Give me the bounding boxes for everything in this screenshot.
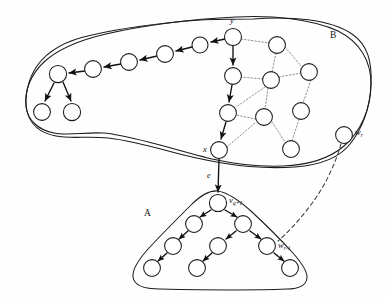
node-d4[interactable] [293, 103, 310, 120]
label-node-wr1-sub: r-1 [284, 245, 291, 251]
node-group [34, 29, 353, 277]
node-vq[interactable] [209, 194, 226, 211]
label-node-wr-sub: r [361, 132, 364, 138]
solid-edge [225, 210, 237, 217]
dotted-edge-group [227, 39, 311, 147]
solid-edge [211, 39, 225, 42]
node-b1[interactable] [192, 37, 208, 53]
solid-edge [229, 85, 232, 102]
node-a8[interactable] [282, 260, 299, 277]
solid-edge [218, 159, 219, 192]
label-node-wr: wr [355, 127, 364, 138]
figure-root: B A y x e wr wr-1 vq+1 [0, 0, 387, 300]
dotted-edge [227, 122, 256, 147]
dotted-edge [292, 119, 299, 141]
label-region-b: B [330, 30, 336, 40]
solid-edge [274, 253, 284, 261]
solid-edge [45, 83, 54, 101]
solid-edge [63, 82, 71, 101]
label-node-wr1: wr-1 [278, 240, 291, 251]
solid-edge [69, 71, 85, 73]
dotted-edge [236, 87, 265, 107]
node-y[interactable] [225, 29, 242, 46]
label-region-a: A [144, 208, 151, 218]
solid-edge [158, 253, 167, 261]
node-a6[interactable] [144, 260, 161, 277]
label-node-x: x [202, 144, 207, 154]
solid-edge [221, 122, 226, 139]
node-a2[interactable] [235, 216, 252, 233]
node-d6[interactable] [283, 141, 300, 158]
dotted-edge [241, 39, 269, 43]
node-d5[interactable] [256, 109, 273, 126]
dotted-edge [272, 53, 276, 72]
graph-diagram-svg: B A y x e wr wr-1 vq+1 [0, 0, 387, 300]
node-a7[interactable] [189, 260, 206, 277]
solid-edge [179, 231, 188, 239]
solid-edge [200, 210, 211, 217]
node-b6[interactable] [34, 104, 51, 121]
node-d2[interactable] [263, 72, 280, 89]
solid-edge [104, 64, 121, 67]
label-node-vq: vq+1 [229, 195, 243, 206]
node-b3[interactable] [121, 54, 138, 71]
dotted-edge [285, 47, 301, 66]
node-b5[interactable] [49, 65, 66, 82]
node-c2[interactable] [220, 105, 237, 122]
node-d3[interactable] [301, 64, 318, 81]
node-a1[interactable] [186, 216, 203, 233]
dotted-edge [241, 77, 263, 79]
solid-edge [176, 47, 192, 51]
node-wr1[interactable] [259, 238, 276, 255]
node-a4[interactable] [210, 238, 227, 255]
dotted-edge [265, 88, 268, 109]
node-wr[interactable] [336, 127, 353, 144]
node-c1[interactable] [225, 68, 242, 85]
label-node-vq-sub: q+1 [233, 200, 243, 206]
dotted-edge [279, 73, 301, 77]
node-b7[interactable] [63, 103, 80, 120]
dotted-edge [272, 122, 285, 142]
label-edge-e: e [207, 170, 211, 180]
node-a3[interactable] [165, 238, 182, 255]
label-node-y: y [229, 15, 234, 25]
node-d1[interactable] [269, 37, 286, 54]
node-b4[interactable] [85, 61, 102, 78]
dotted-edge [303, 80, 311, 103]
node-x[interactable] [211, 142, 228, 159]
solid-edge [203, 253, 212, 261]
dotted-edge [236, 115, 256, 119]
node-b2[interactable] [157, 46, 174, 63]
solid-edge [140, 56, 157, 60]
solid-edge [250, 231, 261, 239]
solid-edge [226, 231, 236, 239]
